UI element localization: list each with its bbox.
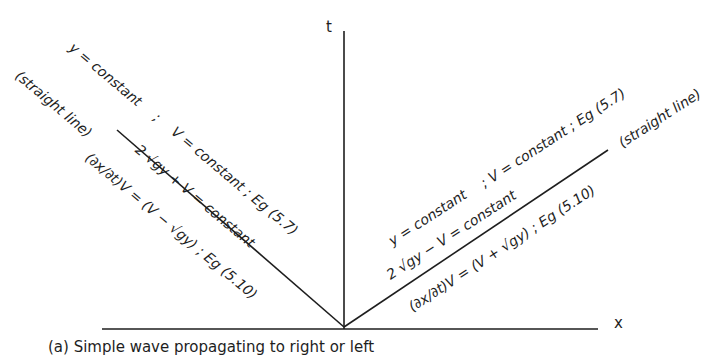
figure-caption: (a) Simple wave propagating to right or …: [48, 340, 374, 355]
t-axis-label: t: [326, 20, 332, 35]
right-characteristic-line: [344, 150, 608, 327]
x-axis-label: x: [614, 316, 623, 331]
